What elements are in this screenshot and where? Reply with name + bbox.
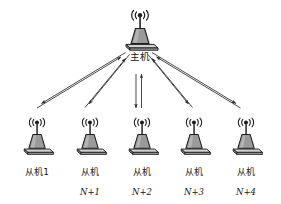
node-slave-n2-label-line2: N+2 xyxy=(132,187,152,197)
node-slave-n4[interactable]: 从机 N+4 xyxy=(219,114,273,197)
link-master-slave-n1 xyxy=(85,55,130,108)
node-slave-n4-label: 从机 N+4 xyxy=(219,157,273,197)
node-master[interactable]: 主机 xyxy=(113,6,167,62)
node-slave-n2-label-line1: 从机 xyxy=(133,167,151,177)
wireless-base-station-icon xyxy=(68,114,112,156)
node-slave-n2[interactable]: 从机 N+2 xyxy=(115,114,169,197)
node-slave-1[interactable]: 从机1 xyxy=(10,114,64,177)
node-slave-n2-label: 从机 N+2 xyxy=(115,157,169,197)
node-slave-n3-label-line2: N+3 xyxy=(184,187,204,197)
node-slave-1-label-line1: 从机1 xyxy=(25,167,49,177)
node-slave-n4-label-line2: N+4 xyxy=(236,187,256,197)
node-slave-n3-label: 从机 N+3 xyxy=(167,157,221,197)
node-slave-n3-label-line1: 从机 xyxy=(185,167,203,177)
node-slave-n1-label: 从机 N+1 xyxy=(63,157,117,197)
node-slave-1-label: 从机1 xyxy=(10,157,64,177)
link-master-slave-n3 xyxy=(148,55,193,108)
node-slave-n1[interactable]: 从机 N+1 xyxy=(63,114,117,197)
wireless-base-station-icon xyxy=(172,114,216,156)
node-slave-n3[interactable]: 从机 N+3 xyxy=(167,114,221,197)
node-slave-n1-label-line2: N+1 xyxy=(80,187,100,197)
network-topology-diagram: 主机 从机1 xyxy=(0,0,281,204)
node-slave-n4-label-line1: 从机 xyxy=(237,167,255,177)
wireless-base-station-icon xyxy=(120,114,164,156)
node-master-label: 主机 xyxy=(113,52,167,62)
node-slave-n1-label-line1: 从机 xyxy=(81,167,99,177)
link-master-slave-n2 xyxy=(136,74,142,108)
wireless-base-station-icon xyxy=(15,114,59,156)
wireless-base-station-icon xyxy=(116,6,164,52)
wireless-base-station-icon xyxy=(224,114,268,156)
